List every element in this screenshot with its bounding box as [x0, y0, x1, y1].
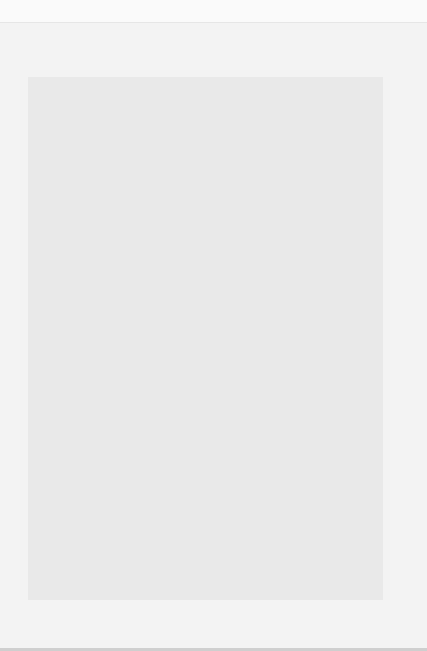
grid-background	[28, 77, 383, 600]
coordinate-graph	[0, 0, 427, 651]
